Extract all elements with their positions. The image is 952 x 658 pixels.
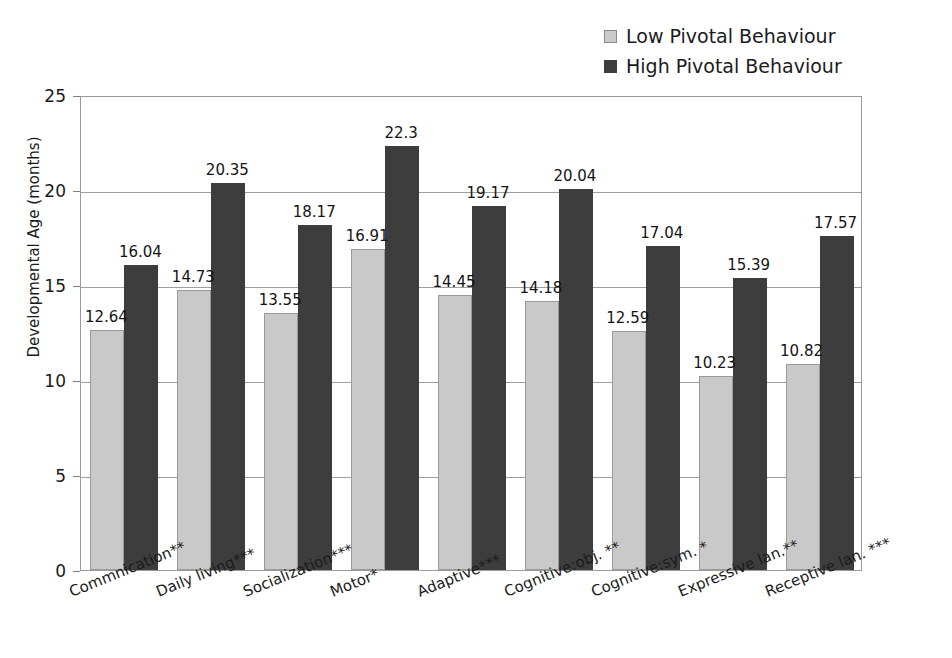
bar: [472, 206, 506, 570]
bar-value-label: 15.39: [727, 258, 770, 273]
bar: [559, 189, 593, 570]
y-tick-mark: [73, 286, 80, 287]
y-tick-label: 15: [26, 278, 66, 295]
bar-value-label: 10.23: [693, 356, 736, 371]
bar: [124, 265, 158, 570]
y-tick-label: 25: [26, 88, 66, 105]
bar: [820, 236, 854, 570]
y-tick-mark: [73, 571, 80, 572]
y-tick-mark: [73, 381, 80, 382]
bar-value-label: 13.55: [259, 293, 302, 308]
legend-item-high: High Pivotal Behaviour: [604, 54, 842, 78]
plot-area: [80, 96, 862, 571]
bar: [298, 225, 332, 570]
bar-value-label: 14.18: [519, 281, 562, 296]
x-category-label: Motor*: [328, 566, 381, 600]
y-tick-label: 0: [26, 563, 66, 580]
bar-value-label: 12.64: [85, 310, 128, 325]
bar-value-label: 14.45: [433, 275, 476, 290]
bar: [90, 330, 124, 570]
bar-value-label: 18.17: [293, 205, 336, 220]
bar-value-label: 14.73: [172, 270, 215, 285]
bar-value-label: 16.04: [119, 245, 162, 260]
y-tick-mark: [73, 191, 80, 192]
bar-value-label: 20.35: [206, 163, 249, 178]
y-tick-mark: [73, 96, 80, 97]
bar-value-label: 20.04: [553, 169, 596, 184]
bar-value-label: 10.82: [780, 344, 823, 359]
y-tick-label: 10: [26, 373, 66, 390]
bar-value-label: 19.17: [467, 186, 510, 201]
y-tick-label: 20: [26, 183, 66, 200]
bar-value-label: 17.57: [814, 216, 857, 231]
bar: [733, 278, 767, 570]
bar: [612, 331, 646, 570]
bar: [646, 246, 680, 570]
y-tick-label: 5: [26, 468, 66, 485]
legend-label-high: High Pivotal Behaviour: [626, 56, 842, 76]
bar-value-label: 22.3: [384, 126, 417, 141]
bar: [525, 301, 559, 570]
bar: [385, 146, 419, 570]
bar: [177, 290, 211, 570]
chart-legend: Low Pivotal Behaviour High Pivotal Behav…: [604, 24, 842, 78]
legend-swatch-high-icon: [604, 60, 617, 73]
legend-swatch-low-icon: [604, 30, 617, 43]
bar-value-label: 16.91: [346, 229, 389, 244]
bar: [351, 249, 385, 570]
y-tick-mark: [73, 476, 80, 477]
legend-label-low: Low Pivotal Behaviour: [626, 26, 835, 46]
legend-item-low: Low Pivotal Behaviour: [604, 24, 842, 48]
bar-value-label: 12.59: [606, 311, 649, 326]
bar-value-label: 17.04: [640, 226, 683, 241]
bar: [264, 313, 298, 570]
bar: [211, 183, 245, 570]
bar: [438, 295, 472, 570]
